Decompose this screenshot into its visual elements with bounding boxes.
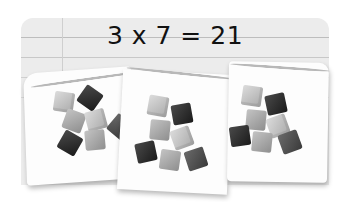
equation-text: 3 x 7 = 21 xyxy=(21,21,329,50)
cube-icon xyxy=(134,140,158,164)
cube-icon xyxy=(170,102,193,125)
cube-icon xyxy=(84,129,106,151)
cube-icon xyxy=(241,85,264,108)
cube-icon xyxy=(229,125,252,148)
cube-icon xyxy=(149,119,171,141)
cube-icon xyxy=(251,131,273,153)
cube-icon xyxy=(159,149,182,172)
cube-icon xyxy=(264,92,288,116)
cube-icon xyxy=(146,94,169,117)
